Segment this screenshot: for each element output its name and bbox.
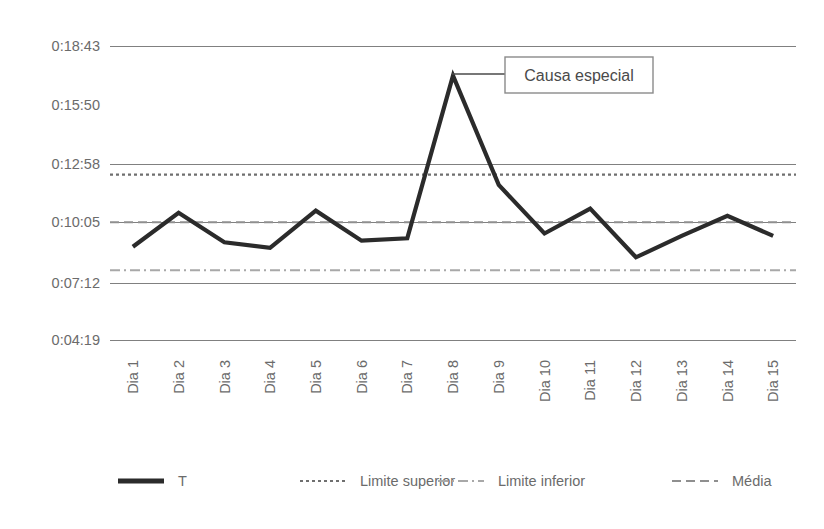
x-tick-label: Dia 13 — [674, 360, 690, 402]
chart-canvas: 0:18:43 0:15:50 0:12:58 0:10:05 0:07:12 … — [0, 0, 824, 529]
x-tick-label: Dia 11 — [582, 360, 598, 401]
chart-background — [0, 0, 824, 529]
x-tick-label: Dia 14 — [720, 360, 736, 402]
x-tick-label: Dia 6 — [354, 360, 370, 394]
x-tick-label: Dia 3 — [217, 360, 233, 394]
legend-label: T — [178, 473, 187, 489]
x-tick-label: Dia 4 — [262, 360, 278, 394]
x-tick-label: Dia 8 — [445, 360, 461, 394]
x-tick-label: Dia 9 — [491, 360, 507, 394]
x-tick-label: Dia 7 — [399, 360, 415, 394]
x-tick-label: Dia 15 — [765, 360, 781, 402]
y-tick-label: 0:07:12 — [52, 275, 100, 291]
y-tick-label: 0:10:05 — [52, 214, 100, 230]
x-tick-label: Dia 12 — [628, 360, 644, 402]
x-tick-label: Dia 5 — [308, 360, 324, 394]
x-tick-label: Dia 2 — [171, 360, 187, 394]
y-tick-label: 0:15:50 — [52, 97, 100, 113]
y-tick-label: 0:12:58 — [52, 156, 100, 172]
legend-label: Limite inferior — [498, 473, 585, 489]
y-tick-label: 0:04:19 — [52, 332, 100, 348]
x-tick-label: Dia 1 — [125, 360, 141, 394]
annotation-label: Causa especial — [524, 67, 633, 84]
x-tick-label: Dia 10 — [537, 360, 553, 402]
legend-label: Média — [732, 473, 772, 489]
y-tick-label: 0:18:43 — [52, 38, 100, 54]
control-chart: 0:18:43 0:15:50 0:12:58 0:10:05 0:07:12 … — [0, 0, 824, 529]
